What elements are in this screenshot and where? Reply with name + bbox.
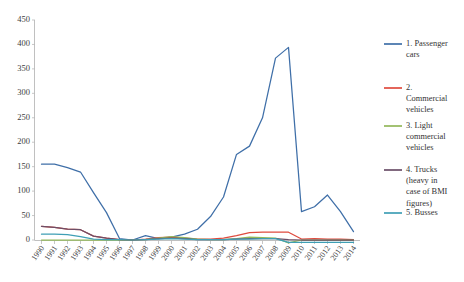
x-tick-label: 2011 — [303, 244, 319, 262]
x-tick-label: 2014 — [342, 244, 359, 262]
series-line — [42, 47, 354, 240]
y-tick-label: 50 — [22, 210, 31, 220]
legend-label[interactable]: 5. Busses — [406, 208, 438, 217]
y-tick-label: 450 — [17, 14, 30, 24]
x-axis: 1990199119921993199419951996199719981999… — [30, 241, 360, 263]
x-tick-label: 2007 — [251, 244, 268, 262]
x-tick-labels: 1990199119921993199419951996199719981999… — [30, 241, 359, 263]
x-tick-label: 1996 — [108, 244, 125, 262]
chart-canvas: 050100150200250300350400450 199019911992… — [0, 0, 464, 282]
y-tick-labels: 050100150200250300350400450 — [17, 14, 35, 244]
y-tick-label: 100 — [17, 185, 30, 195]
legend-label[interactable]: (heavy in — [406, 176, 438, 185]
legend-label[interactable]: 4. Trucks — [406, 165, 437, 174]
legend-label[interactable]: vehicles — [406, 143, 433, 152]
legend-label[interactable]: cars — [406, 50, 419, 59]
x-tick-label: 2001 — [173, 244, 190, 262]
x-tick-label: 2004 — [212, 244, 229, 262]
x-tick-label: 1997 — [121, 244, 138, 262]
x-tick-label: 1993 — [69, 244, 86, 262]
x-tick-label: 1992 — [56, 244, 73, 262]
y-tick-label: 400 — [17, 38, 30, 48]
x-tick-label: 1991 — [43, 244, 60, 262]
x-tick-label: 2013 — [329, 244, 346, 262]
y-tick-label: 350 — [17, 63, 30, 73]
x-tick-label: 2002 — [186, 244, 203, 262]
x-tick-label: 1995 — [95, 244, 112, 262]
x-tick-label: 1994 — [82, 244, 99, 262]
legend-label[interactable]: commercial — [406, 132, 446, 141]
legend-label[interactable]: 3. Light — [406, 121, 433, 130]
legend-label[interactable]: Commercial — [406, 94, 448, 103]
legend-label[interactable]: vehicles — [406, 105, 433, 114]
x-tick-label: 2010 — [290, 244, 307, 262]
legend-label[interactable]: figures) — [406, 199, 432, 208]
x-tick-label: 2008 — [264, 244, 281, 262]
x-tick-label: 2006 — [238, 244, 255, 262]
legend-label[interactable]: 1. Passenger — [406, 39, 448, 48]
x-tick-label: 2012 — [316, 244, 333, 262]
x-tick-label: 2005 — [225, 244, 242, 262]
x-tick-label: 2009 — [277, 244, 294, 262]
x-tick-label: 1990 — [30, 244, 47, 262]
legend-label[interactable]: 2. — [406, 83, 412, 92]
data-series-group — [42, 47, 354, 243]
y-tick-label: 150 — [17, 161, 30, 171]
line-chart: 050100150200250300350400450 199019911992… — [0, 0, 464, 282]
y-tick-label: 300 — [17, 87, 30, 97]
x-tick-label: 1999 — [147, 244, 164, 262]
chart-legend: 1. Passengercars2.Commercialvehicles3. L… — [384, 39, 448, 217]
x-tick-label: 2000 — [160, 244, 177, 262]
y-axis: 050100150200250300350400450 — [17, 14, 35, 244]
x-tick-label: 1998 — [134, 244, 151, 262]
y-tick-label: 250 — [17, 112, 30, 122]
y-tick-label: 0 — [26, 234, 30, 244]
legend-label[interactable]: case of BMI — [406, 187, 448, 196]
x-tick-label: 2003 — [199, 244, 216, 262]
y-tick-label: 200 — [17, 136, 30, 146]
